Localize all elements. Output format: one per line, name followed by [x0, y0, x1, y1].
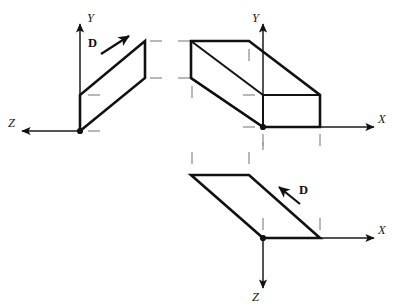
- d-vector-label-left: D: [88, 36, 97, 50]
- origin-point-mid: [260, 124, 266, 130]
- z-axis-label-bottom: Z: [252, 290, 260, 304]
- orthographic-projection-diagram: Y Z D Y X: [0, 0, 393, 307]
- d-vector-label-bottom: D: [299, 183, 308, 197]
- figure-root: Y Z D Y X: [0, 0, 393, 307]
- origin-point-bottom: [260, 235, 266, 241]
- x-axis-label-bottom: X: [377, 223, 387, 237]
- x-axis-label-mid: X: [377, 112, 387, 126]
- origin-point-left: [77, 128, 83, 134]
- z-axis-label-left: Z: [8, 116, 16, 130]
